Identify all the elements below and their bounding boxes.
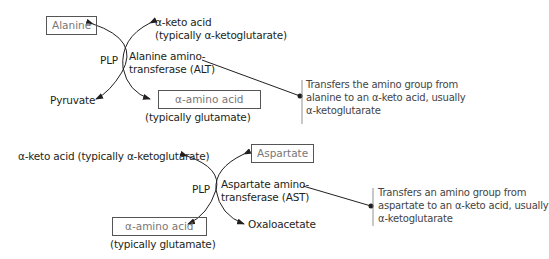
ast-amino-acid-box: α-amino acid <box>112 217 207 236</box>
alt-amino-acid-box: α-amino acid <box>158 90 261 109</box>
ast-acceptor: α-keto acid (typically α-ketoglutarate) <box>18 150 209 163</box>
aspartate-box: Aspartate <box>251 144 314 163</box>
alt-acceptor-line1: α-keto acid <box>155 16 211 29</box>
alt-enzyme-line2: transferase (ALT) <box>129 63 215 76</box>
oxaloacetate-label: Oxaloacetate <box>248 218 316 231</box>
alt-amino-acid-note: (typically glutamate) <box>145 111 251 124</box>
pyruvate-label: Pyruvate <box>50 94 95 107</box>
alt-description-line2: alanine to an α-keto acid, usually <box>306 91 465 104</box>
ast-amino-acid-note: (typically glutamate) <box>110 238 216 251</box>
ast-enzyme-line1: Aspartate amino- <box>221 178 309 191</box>
alanine-box: Alanine <box>46 16 97 35</box>
alt-cofactor: PLP <box>100 54 118 67</box>
alt-enzyme-line1: Alanine amino- <box>129 50 205 63</box>
alt-description-line1: Transfers the amino group from <box>306 78 458 91</box>
ast-cofactor: PLP <box>192 183 210 196</box>
ast-enzyme-line2: transferase (AST) <box>221 191 309 204</box>
ast-description-line2: aspartate to an α-keto acid, usually <box>378 199 549 212</box>
alt-acceptor-line2: (typically α-ketoglutarate) <box>155 29 287 42</box>
ast-description-line3: α-ketoglutarate <box>378 212 453 225</box>
ast-description-line1: Transfers an amino group from <box>378 186 526 199</box>
alt-description-line3: α-ketoglutarate <box>306 104 381 117</box>
